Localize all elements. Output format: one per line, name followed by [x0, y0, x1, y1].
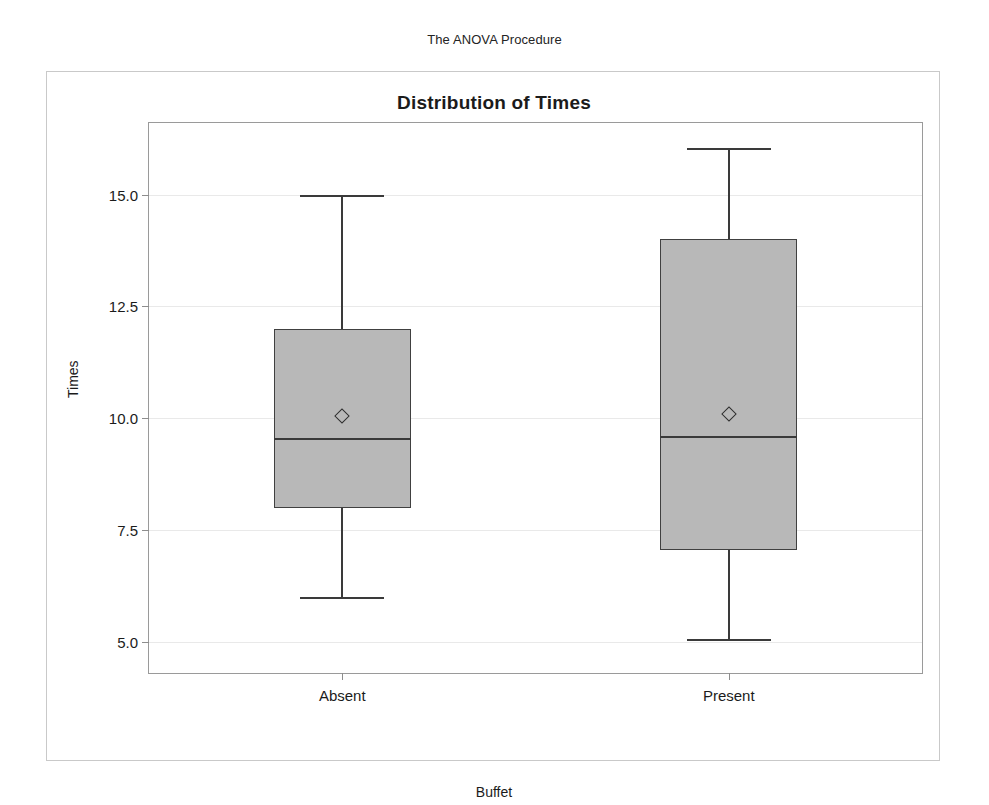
y-tick-label: 10.0	[109, 410, 138, 427]
y-tick-label: 12.5	[109, 298, 138, 315]
gridline	[149, 530, 922, 531]
gridline	[149, 195, 922, 196]
y-tick-label: 7.5	[117, 521, 138, 538]
y-tick-mark	[142, 642, 149, 643]
report-frame: Distribution of Times Times Buffet 5.07.…	[46, 71, 940, 761]
chart-title: Distribution of Times	[47, 92, 941, 114]
lower-whisker	[341, 508, 343, 597]
gridline	[149, 306, 922, 307]
upper-whisker-cap	[300, 195, 384, 197]
x-tick-label: Present	[703, 687, 755, 704]
x-tick-mark	[342, 673, 343, 680]
upper-whisker	[728, 148, 730, 240]
y-axis-title: Times	[65, 360, 81, 398]
lower-whisker-cap	[300, 597, 384, 599]
page-title: The ANOVA Procedure	[0, 32, 989, 47]
y-tick-mark	[142, 195, 149, 196]
x-tick-label: Absent	[319, 687, 366, 704]
gridline	[149, 642, 922, 643]
y-tick-label: 5.0	[117, 633, 138, 650]
plot-area: 5.07.510.012.515.0 AbsentPresent	[148, 122, 923, 674]
lower-whisker-cap	[687, 639, 771, 641]
x-tick-mark	[729, 673, 730, 680]
lower-whisker	[728, 550, 730, 639]
y-tick-mark	[142, 306, 149, 307]
gridline	[149, 418, 922, 419]
y-tick-mark	[142, 530, 149, 531]
y-tick-label: 15.0	[109, 186, 138, 203]
median-line	[660, 436, 797, 438]
upper-whisker	[341, 195, 343, 329]
x-axis-title: Buffet	[47, 784, 941, 800]
box-iqr	[660, 239, 797, 550]
median-line	[274, 438, 411, 440]
upper-whisker-cap	[687, 148, 771, 150]
y-tick-mark	[142, 418, 149, 419]
